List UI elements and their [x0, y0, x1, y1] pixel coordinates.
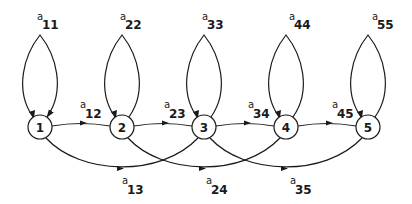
- node-label: 4: [282, 121, 290, 135]
- edge-2-4: [128, 138, 280, 167]
- arrowhead-icon: [244, 121, 251, 126]
- label-subscript: 24: [211, 183, 228, 197]
- label-subscript: 34: [253, 107, 270, 121]
- self-loop-3: [187, 35, 222, 117]
- node-1: 1: [28, 115, 52, 139]
- self-loop-4: [269, 35, 304, 117]
- label-subscript: 45: [337, 107, 354, 121]
- skip-edge-labels: a 13 a 24 a 35: [122, 175, 312, 197]
- node-5: 5: [356, 115, 380, 139]
- loop-labels: a 11 a 22 a 33 a 44 a 55: [37, 11, 394, 32]
- self-loop-1: [23, 35, 58, 117]
- node-label: 2: [118, 121, 126, 135]
- node-label: 5: [364, 121, 372, 135]
- node-4: 4: [274, 115, 298, 139]
- arrowhead-icon: [162, 121, 169, 126]
- arrowhead-icon: [80, 121, 87, 126]
- edge-3-5: [210, 138, 362, 167]
- loop-arrowheads: [29, 110, 363, 118]
- label-subscript: 22: [125, 18, 142, 32]
- self-loops: [23, 35, 386, 117]
- label-subscript: 33: [207, 18, 224, 32]
- label-subscript: 35: [295, 183, 312, 197]
- arrowhead-icon: [326, 121, 333, 126]
- label-subscript: 11: [42, 18, 59, 32]
- edge-1-3: [46, 138, 198, 167]
- label-subscript: 12: [85, 107, 102, 121]
- self-loop-2: [105, 35, 140, 117]
- self-loop-5: [351, 35, 386, 117]
- node-label: 1: [36, 121, 44, 135]
- label-subscript: 23: [169, 107, 186, 121]
- label-subscript: 44: [294, 18, 311, 32]
- skip-edges: [46, 138, 362, 171]
- node-3: 3: [192, 115, 216, 139]
- node-label: 3: [200, 121, 208, 135]
- state-diagram: 1 2 3 4 5 a 11 a 22 a 33 a 44 a 55 a 12 …: [0, 0, 412, 204]
- node-2: 2: [110, 115, 134, 139]
- label-subscript: 13: [127, 183, 144, 197]
- label-subscript: 55: [377, 18, 394, 32]
